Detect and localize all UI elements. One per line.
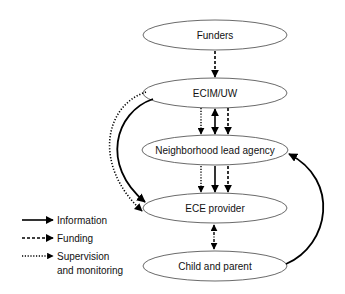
legend-label-monitoring: and monitoring <box>57 265 123 276</box>
neighborhood-lead-agency-label: Neighborhood lead agency <box>155 145 275 156</box>
legend: Information Funding Supervision and moni… <box>22 215 123 277</box>
edge-child-nla-information-curve <box>286 154 323 264</box>
funders-label: Funders <box>197 30 234 41</box>
ece-provider-label: ECE provider <box>185 203 245 214</box>
node-ece-provider: ECE provider <box>143 193 287 223</box>
legend-label-supervision: Supervision <box>57 251 109 262</box>
node-neighborhood-lead-agency: Neighborhood lead agency <box>142 135 288 165</box>
legend-label-funding: Funding <box>57 233 93 244</box>
legend-item-information: Information <box>22 215 107 226</box>
ecim-uw-label: ECIM/UW <box>193 88 238 99</box>
diagram-canvas: Funders ECIM/UW Neighborhood lead agency… <box>0 0 345 294</box>
legend-label-information: Information <box>57 215 107 226</box>
edge-ecim-ece-supervision-curve <box>110 92 146 211</box>
legend-item-supervision: Supervision and monitoring <box>22 251 123 277</box>
node-child-and-parent: Child and parent <box>143 251 287 281</box>
node-ecim-uw: ECIM/UW <box>143 78 287 108</box>
node-funders: Funders <box>143 20 287 50</box>
child-and-parent-label: Child and parent <box>178 261 252 272</box>
legend-item-funding: Funding <box>22 233 93 244</box>
